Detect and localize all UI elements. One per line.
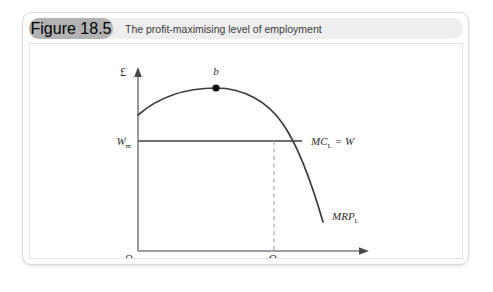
mc-label-sub: L	[328, 142, 332, 150]
qe-axis-label: Qe	[268, 252, 279, 259]
wage-axis-label: Wm	[116, 135, 131, 150]
y-axis-arrow-icon	[134, 67, 142, 77]
employment-chart: £ b Wm MCL= W MRPL O Qe Q of	[30, 44, 463, 259]
figure-header: Figure 18.5 The profit-maximising level …	[29, 18, 463, 39]
y-axis-currency-label: £	[120, 65, 126, 79]
mc-label-main: MC	[310, 135, 328, 147]
mrp-label-main: MRP	[331, 210, 355, 222]
mrp-label-sub: L	[355, 217, 359, 225]
figure-number-badge: Figure 18.5	[29, 18, 113, 39]
mc-line-label: MCL= W	[310, 135, 355, 150]
figure-card: Figure 18.5 The profit-maximising level …	[22, 12, 469, 265]
point-b-label: b	[213, 65, 219, 77]
x-axis-arrow-icon	[359, 247, 369, 255]
chart-panel: £ b Wm MCL= W MRPL O Qe Q of	[29, 43, 463, 259]
mrp-curve-label: MRPL	[331, 210, 359, 225]
point-b-marker	[212, 84, 219, 91]
qe-label-sub: e	[276, 259, 279, 260]
figure-title: The profit-maximising level of employmen…	[125, 18, 322, 39]
mrp-curve	[138, 88, 323, 222]
wage-label-sub: m	[126, 142, 132, 150]
origin-label: O	[125, 253, 133, 259]
mc-label-tail: = W	[335, 135, 355, 147]
qe-label-main: Q	[268, 252, 276, 259]
figure-number-label: Figure 18.5	[31, 20, 112, 38]
